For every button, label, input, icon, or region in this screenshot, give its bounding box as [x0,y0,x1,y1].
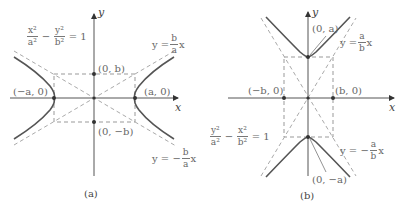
point-top [92,72,96,76]
caption-a: (a) [84,189,98,199]
y-axis-label-b: y [312,7,318,18]
hyperbola-figure: y x x²a² − y²b² = 1 y = ba x y = − ba x … [0,0,402,207]
point-right [331,96,335,100]
point-label-bottom-b: (0, −a) [312,175,347,185]
origin [92,96,95,99]
vertex-bottom [306,135,310,139]
point-label-top-a: (0, b) [98,64,125,74]
point-label-top-b: (0, a) [312,24,338,34]
leader-top [310,36,326,55]
point-label-right-b: (b, 0) [335,86,362,96]
vertex-left [52,96,56,100]
asymptote-negative-label-a: y = − ba x [152,148,196,169]
vertex-right [133,96,137,100]
x-axis-label-b: x [389,102,395,113]
point-label-bottom-a: (0, −b) [98,127,133,137]
equation-b: y²a² − x²b² = 1 [209,126,270,147]
equation-a: x²a² − y²b² = 1 [26,26,87,47]
point-label-left-a: (−a, 0) [13,87,48,97]
point-label-left-b: (−b, 0) [248,86,283,96]
point-left [282,96,286,100]
x-axis-label-a: x [175,102,181,113]
asymptote-positive-label-b: y = ab x [340,32,372,53]
vertex-top [306,55,310,59]
y-axis-label-a: y [98,7,104,18]
asymptote-negative-label-b: y = − ab x [340,140,384,161]
caption-b: (b) [300,191,314,201]
point-label-right-a: (a, 0) [144,87,170,97]
asymptote-positive-label-a: y = ba x [152,34,185,55]
point-bottom [92,120,96,124]
origin [306,96,309,99]
